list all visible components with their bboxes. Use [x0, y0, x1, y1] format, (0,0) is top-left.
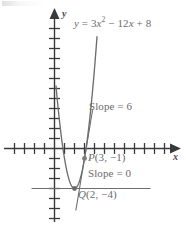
- equation-middle: − 12: [105, 17, 128, 29]
- y-axis-arrow-icon: [50, 8, 60, 19]
- graph-figure: y = 3x2 − 12x + 8 Slope = 6 P(3, −1) Slo…: [0, 0, 186, 226]
- equation-label: y = 3x2 − 12x + 8: [74, 18, 151, 30]
- point-q-marker: [72, 186, 77, 191]
- slope-at-p-label: Slope = 6: [89, 101, 132, 113]
- slope-at-q-label: Slope = 0: [88, 168, 131, 180]
- point-q-coords: (2, −4): [86, 188, 117, 200]
- equation-tail: + 8: [134, 17, 152, 29]
- point-p-label: P(3, −1): [88, 152, 126, 164]
- point-p-name: P: [88, 151, 95, 163]
- parabola-curve: [56, 37, 97, 189]
- equation-eq: = 3: [79, 17, 97, 29]
- x-axis-label: x: [173, 152, 178, 162]
- y-axis-label: y: [62, 9, 66, 19]
- point-p-marker: [82, 156, 87, 161]
- point-q-label: Q(2, −4): [78, 189, 117, 201]
- point-p-coords: (3, −1): [95, 151, 126, 163]
- point-q-name: Q: [78, 188, 86, 200]
